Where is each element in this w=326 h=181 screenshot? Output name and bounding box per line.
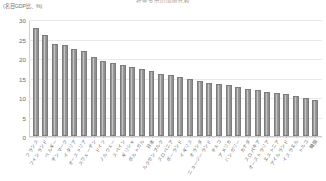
bar-slot bbox=[41, 20, 51, 136]
bar[interactable] bbox=[274, 93, 280, 136]
x-axis-label-slot: ニュージーランド bbox=[205, 138, 215, 181]
bar[interactable] bbox=[158, 74, 164, 136]
bar-slot bbox=[127, 20, 137, 136]
bar[interactable] bbox=[312, 100, 318, 136]
bar[interactable] bbox=[110, 63, 116, 136]
y-axis-tick-label: 5 bbox=[10, 114, 26, 121]
bar-slot bbox=[224, 20, 234, 136]
bar-slot bbox=[166, 20, 176, 136]
y-axis-tick-label: 10 bbox=[10, 95, 26, 102]
bar[interactable] bbox=[177, 77, 183, 136]
bar[interactable] bbox=[283, 94, 289, 136]
bar-slot bbox=[147, 20, 157, 136]
bar-slot bbox=[253, 20, 263, 136]
x-axis-label-slot: ポーランド bbox=[176, 138, 186, 181]
x-axis-label-slot: 韓国 bbox=[311, 138, 321, 181]
bar-slot bbox=[233, 20, 243, 136]
x-axis-label-slot: ポルトガル bbox=[137, 138, 147, 181]
bar[interactable] bbox=[264, 92, 270, 136]
bar-slot bbox=[301, 20, 311, 136]
bar[interactable] bbox=[52, 44, 58, 136]
y-axis-tick-label: 25 bbox=[10, 36, 26, 43]
chart-title: 社会支出の国際比較 bbox=[0, 0, 326, 3]
plot-area: 051015202530 bbox=[29, 20, 322, 137]
y-axis-tick-label: 15 bbox=[10, 75, 26, 82]
bar[interactable] bbox=[255, 90, 261, 136]
bar[interactable] bbox=[206, 83, 212, 136]
bar-slot bbox=[205, 20, 215, 136]
bar[interactable] bbox=[120, 65, 126, 136]
bar[interactable] bbox=[42, 35, 48, 136]
bar[interactable] bbox=[216, 84, 222, 136]
bar[interactable] bbox=[303, 98, 309, 136]
bar[interactable] bbox=[81, 51, 87, 136]
bar[interactable] bbox=[100, 61, 106, 136]
bar-slot bbox=[60, 20, 70, 136]
bar[interactable] bbox=[129, 67, 135, 136]
bar-slot bbox=[185, 20, 195, 136]
bar[interactable] bbox=[235, 87, 241, 136]
bar-slot bbox=[98, 20, 108, 136]
bar-slot bbox=[195, 20, 205, 136]
x-axis-label-slot: チェコ bbox=[214, 138, 224, 181]
bar[interactable] bbox=[71, 49, 77, 136]
bar[interactable] bbox=[149, 71, 155, 136]
x-axis-labels-group: フランスフィンランドベルギーデンマークイタリアオーストリアスウェーデンドイツノル… bbox=[29, 138, 322, 181]
y-axis-tick-label: 20 bbox=[10, 56, 26, 63]
bar-slot bbox=[118, 20, 128, 136]
bar[interactable] bbox=[139, 69, 145, 136]
bar-series bbox=[29, 20, 322, 136]
bar-slot bbox=[214, 20, 224, 136]
bar-slot bbox=[243, 20, 253, 136]
y-axis-unit-caption: (名目GDP比、%) bbox=[3, 2, 42, 9]
bar-slot bbox=[291, 20, 301, 136]
bar[interactable] bbox=[91, 57, 97, 136]
bar[interactable] bbox=[33, 28, 39, 136]
x-axis-label-slot: イスラエル bbox=[291, 138, 301, 181]
bar[interactable] bbox=[293, 96, 299, 136]
bar-slot bbox=[89, 20, 99, 136]
bar-slot bbox=[311, 20, 321, 136]
bar[interactable] bbox=[245, 89, 251, 136]
y-axis-tick-label: 30 bbox=[10, 17, 26, 24]
bar-slot bbox=[50, 20, 60, 136]
x-axis-label-slot: ハンガリー bbox=[233, 138, 243, 181]
bar-slot bbox=[137, 20, 147, 136]
bar-slot bbox=[108, 20, 118, 136]
bar-slot bbox=[31, 20, 41, 136]
y-axis-tick-label: 0 bbox=[10, 134, 26, 141]
bar[interactable] bbox=[168, 75, 174, 136]
chart-container: 社会支出の国際比較 (名目GDP比、%) 051015202530 フランスフィ… bbox=[0, 0, 326, 181]
bar-slot bbox=[79, 20, 89, 136]
bar[interactable] bbox=[197, 81, 203, 136]
bar-slot bbox=[156, 20, 166, 136]
x-axis-label: 韓国 bbox=[310, 139, 319, 150]
bar[interactable] bbox=[226, 85, 232, 136]
bar[interactable] bbox=[62, 45, 68, 136]
x-axis-label-slot: ノルウェー bbox=[108, 138, 118, 181]
bar-slot bbox=[176, 20, 186, 136]
bar-slot bbox=[262, 20, 272, 136]
bar-slot bbox=[272, 20, 282, 136]
bar-slot bbox=[70, 20, 80, 136]
bar-slot bbox=[282, 20, 292, 136]
bar[interactable] bbox=[187, 79, 193, 136]
